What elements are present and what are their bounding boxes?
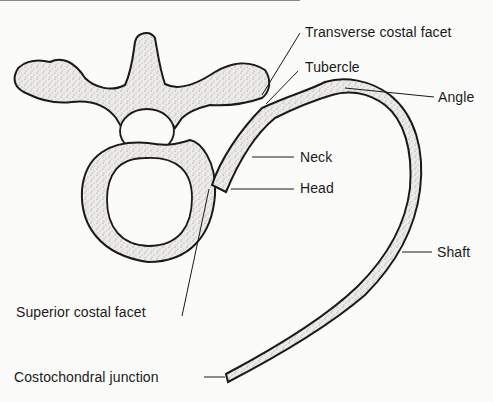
label-head: Head <box>300 180 334 196</box>
label-shaft: Shaft <box>437 244 470 260</box>
label-superior-costal-facet: Superior costal facet <box>16 304 146 320</box>
leader-transverse-costal-facet <box>262 33 300 95</box>
label-angle: Angle <box>438 89 474 105</box>
rib-shape <box>212 79 421 382</box>
label-transverse-costal-facet: Transverse costal facet <box>305 24 452 40</box>
vertebral-body-inner <box>107 158 192 246</box>
vertebra-rib-illustration <box>0 0 493 402</box>
anatomy-diagram: Transverse costal facet Tubercle Angle N… <box>0 0 493 402</box>
label-neck: Neck <box>300 149 332 165</box>
label-costochondral-junction: Costochondral junction <box>14 369 159 385</box>
rib <box>212 79 421 382</box>
label-tubercle: Tubercle <box>305 59 360 75</box>
